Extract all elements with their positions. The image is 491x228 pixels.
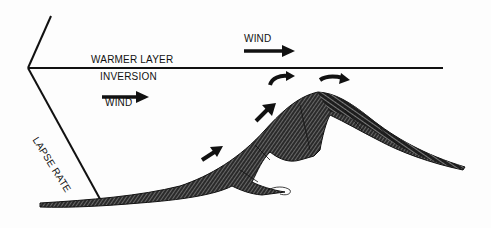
mountain-shadow-face (318, 92, 465, 169)
ground-slope (40, 92, 465, 207)
warmer-layer-label: WARMER LAYER (91, 54, 173, 65)
wind-arrow-curve-2-icon (320, 73, 350, 84)
wind-arrow-slope-2-icon (256, 103, 276, 121)
mountain (40, 92, 465, 207)
wind-label-lower: WIND (105, 97, 132, 108)
upper-temperature-line (28, 16, 51, 68)
wind-arrow-upper-icon (244, 45, 295, 57)
inversion-diagram: WARMER LAYER INVERSION WIND WIND LAPSE R… (0, 0, 491, 228)
wind-arrow-slope-1-icon (202, 146, 223, 160)
inversion-label: INVERSION (100, 71, 157, 82)
wind-label-upper: WIND (244, 33, 271, 44)
wind-arrow-curve-1-icon (270, 71, 295, 85)
